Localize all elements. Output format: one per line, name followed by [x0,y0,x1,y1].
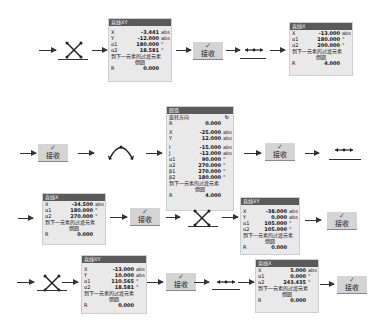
accept-button[interactable]: ✓接收 [130,208,160,226]
accept-button[interactable]: ✓接收 [327,212,357,230]
field-r: R4.000 [167,192,233,198]
arc-icon [106,143,136,161]
panel-line-xy-3: 直线XY X-13.000abs Y10.000abs α1110.565° α… [81,255,147,314]
flow-arrow [39,50,56,51]
line-xy-icon [40,273,64,295]
flow-arrow [110,217,127,218]
underline [329,159,361,160]
panel-line-x-1: 直线X X-13.000abs α1180.000° α2200.000° 到下… [289,22,353,76]
line-x-icon [216,278,236,286]
accept-button[interactable]: ✓接收 [38,144,68,162]
check-icon: ✓ [349,277,355,284]
field-y: Y12.000abs [167,135,233,141]
underline [37,290,67,291]
line-x-icon [244,46,264,54]
field-r: R0.000 [256,297,318,303]
accept-button[interactable]: ✓接收 [166,273,196,291]
flow-arrow [18,218,33,219]
accept-button[interactable]: ✓接收 [265,143,295,161]
flow-arrow [226,50,240,51]
panel-line-xy-1: 直线XY X-3.441abs Y-12.000abs α1180.000° α… [108,18,172,82]
flow-arrow [270,50,285,51]
underline [188,226,218,227]
flow-arrow [146,153,162,154]
check-icon: ✓ [277,144,283,151]
flow-arrow [17,282,34,283]
check-icon: ✓ [339,213,345,220]
check-icon: ✓ [178,274,184,281]
underline [240,58,266,59]
line-x-icon [334,146,354,154]
flow-arrow [62,282,78,283]
flow-arrow [176,50,191,51]
flow-arrow [92,50,107,51]
flow-arrow [166,217,180,218]
flow-arrow [320,284,334,285]
accept-button[interactable]: ✓接收 [337,276,367,294]
field-r: R4.000 [290,60,352,66]
panel-arc: 圆弧 旋转方向↻ R0.000 X-25.000abs Y12.000abs I… [166,106,234,211]
flow-arrow [147,282,163,283]
panel-title: 直线XY [82,256,146,263]
flow-arrow [78,153,94,154]
check-icon: ✓ [50,145,56,152]
flow-arrow [238,282,254,283]
field-r: R0.000 [241,244,299,250]
flow-arrow [305,220,321,221]
flow-arrow [222,217,238,218]
underline [212,289,240,290]
field-r: R0.000 [43,231,105,237]
panel-line-x-2: 直线X X-34.500abs α1180.000° α2270.000° 到下… [42,193,106,245]
panel-line-xy-2: 直线XY X-38.000abs Y0.000abs α1105.000° α2… [240,197,300,255]
panel-title: 圆弧 [167,107,233,114]
flow-arrow [244,153,261,154]
panel-title: 直线XY [109,19,171,26]
panel-line-x-3: 直线X X5.000abs α10.000° α2243.435° 到下一元素的… [255,259,319,313]
flow-arrow [194,282,209,283]
field-r: R0.000 [109,65,171,71]
panel-title: 直线X [256,260,318,267]
flow-arrow [305,153,319,154]
panel-title: 直线X [290,23,352,30]
accept-button[interactable]: ✓接收 [193,42,223,60]
field-r: R0.000 [82,302,146,308]
check-icon: ✓ [205,43,211,50]
field-r: R0.000 [167,120,233,126]
panel-title: 直线X [43,194,105,201]
check-icon: ✓ [142,209,148,216]
underline [58,59,88,60]
panel-title: 直线XY [241,198,299,205]
flow-arrow [20,153,36,154]
